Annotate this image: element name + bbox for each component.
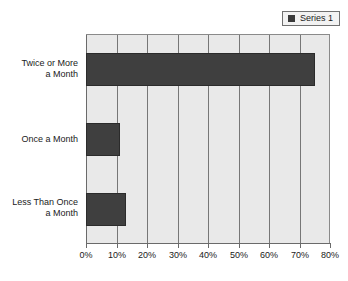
x-axis-tick-label: 30% [169, 250, 187, 260]
bar [86, 123, 120, 156]
y-axis-category-label: Once a Month [21, 134, 78, 145]
x-axis-tick [300, 243, 301, 248]
legend-entry-label: Series 1 [300, 14, 333, 23]
x-axis-tick-label: 70% [291, 250, 309, 260]
bars-group [86, 35, 329, 243]
x-axis-tick [178, 243, 179, 248]
x-axis-ticks [86, 243, 331, 248]
x-axis-tick-label: 40% [199, 250, 217, 260]
x-axis-tick-label: 80% [321, 250, 339, 260]
x-axis-tick [147, 243, 148, 248]
plot-area [86, 34, 330, 243]
x-axis-tick-label: 50% [230, 250, 248, 260]
x-axis-tick-label: 0% [79, 250, 92, 260]
x-axis-tick-label: 10% [108, 250, 126, 260]
bar-chart: Series 1 0%10%20%30%40%50%60%70%80% Twic… [0, 0, 348, 281]
y-axis-category-labels: Twice or More a MonthOnce a MonthLess Th… [0, 34, 82, 243]
x-axis-tick [117, 243, 118, 248]
chart-legend: Series 1 [282, 11, 340, 26]
legend-square-icon [288, 15, 295, 22]
x-axis-tick [208, 243, 209, 248]
bar [86, 53, 315, 86]
x-axis-tick-labels: 0%10%20%30%40%50%60%70%80% [86, 250, 331, 264]
x-axis-tick [269, 243, 270, 248]
x-axis-tick-label: 20% [138, 250, 156, 260]
bar [86, 193, 126, 226]
y-axis-category-label: Less Than Once a Month [12, 197, 78, 219]
x-axis-tick-label: 60% [260, 250, 278, 260]
x-axis-tick [330, 243, 331, 248]
y-axis-category-label: Twice or More a Month [21, 58, 78, 80]
x-axis-tick [86, 243, 87, 248]
x-axis-tick [239, 243, 240, 248]
